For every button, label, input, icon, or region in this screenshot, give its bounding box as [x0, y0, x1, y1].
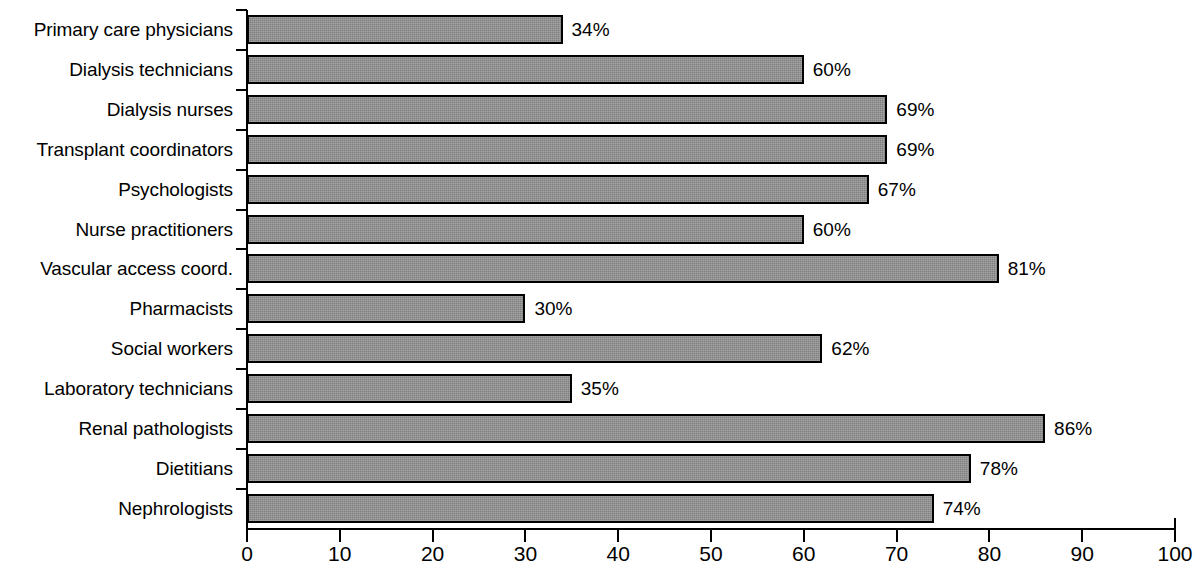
- value-tick-label: 80: [949, 541, 1029, 566]
- value-tick-label: 30: [485, 541, 565, 566]
- value-tick-label: 10: [300, 541, 380, 566]
- value-tick-label: 70: [857, 541, 937, 566]
- value-tick-label: 40: [578, 541, 658, 566]
- value-tick-label: 50: [671, 541, 751, 566]
- value-tick-label: 100: [1135, 541, 1194, 566]
- bar-chart: Primary care physicians34%Dialysis techn…: [0, 0, 1194, 568]
- value-tick-label: 20: [393, 541, 473, 566]
- value-tick-label: 90: [1042, 541, 1122, 566]
- value-tick-label: 60: [764, 541, 844, 566]
- value-axis-ticks: 0102030405060708090100: [0, 0, 1194, 568]
- value-tick-label: 0: [207, 541, 287, 566]
